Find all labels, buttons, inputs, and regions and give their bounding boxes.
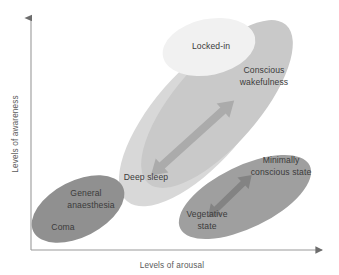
label-coma: Coma bbox=[51, 222, 74, 232]
label-vegetative-state-line2: state bbox=[197, 221, 216, 231]
label-conscious-wakefulness-line1: Conscious bbox=[243, 65, 284, 75]
label-minimally-conscious-line2: conscious state bbox=[251, 167, 312, 177]
label-general-anaesthesia-line1: General bbox=[70, 188, 101, 198]
y-axis-label: Levels of awareness bbox=[11, 95, 20, 173]
label-conscious-wakefulness-line2: wakefulness bbox=[239, 77, 288, 87]
diagram-canvas: Levels of awareness Levels of arousal Lo… bbox=[0, 0, 339, 275]
label-general-anaesthesia-line2: anaesthesia bbox=[67, 200, 115, 210]
label-locked-in: Locked-in bbox=[192, 41, 230, 51]
x-axis-label: Levels of arousal bbox=[140, 261, 204, 270]
label-minimally-conscious-line1: Minimally bbox=[263, 155, 300, 165]
label-deep-sleep: Deep sleep bbox=[124, 172, 169, 182]
label-vegetative-state-line1: Vegetative bbox=[186, 209, 227, 219]
